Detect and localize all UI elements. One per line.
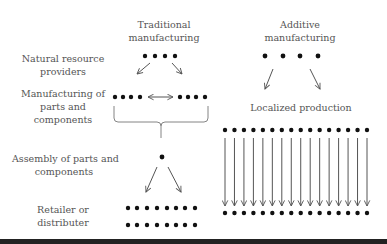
additive-bottom-dots — [223, 211, 369, 215]
traditional-resource-dots — [143, 54, 177, 58]
bottom-rule — [0, 239, 387, 244]
retailer-dots — [126, 206, 197, 227]
grouping-brace — [114, 106, 208, 138]
diagram-graphics — [0, 0, 387, 244]
additive-parallel-arrows — [225, 138, 367, 206]
additive-localized-dots — [223, 128, 369, 132]
assembly-arrows — [146, 167, 181, 192]
diagram-canvas: Traditional manufacturing Additive manuf… — [0, 0, 387, 244]
additive-top-arrows — [265, 69, 320, 89]
traditional-resource-arrows — [137, 63, 182, 74]
assembly-dot — [160, 155, 165, 160]
additive-top-dots — [263, 54, 321, 59]
